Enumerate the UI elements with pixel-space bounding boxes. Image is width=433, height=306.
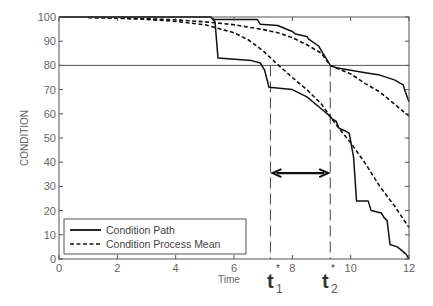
- x-tick-label: 12: [403, 262, 415, 274]
- svg-text:2: 2: [331, 282, 338, 296]
- x-tick-label: 6: [231, 262, 237, 274]
- y-tick-label: 20: [44, 205, 56, 217]
- t1-star-label: t * 1: [267, 263, 283, 296]
- legend: Condition Path Condition Process Mean: [64, 219, 246, 254]
- svg-text:t: t: [322, 270, 329, 292]
- y-tick-label: 100: [38, 11, 56, 23]
- svg-text:1: 1: [276, 282, 283, 296]
- y-tick-label: 0: [50, 253, 56, 265]
- chart-figure: 0246810120102030405060708090100 CONDITIO…: [0, 0, 433, 306]
- y-tick-label: 90: [44, 35, 56, 47]
- x-tick-label: 4: [173, 262, 179, 274]
- y-tick-label: 70: [44, 84, 56, 96]
- mean-curve-upper: [88, 18, 409, 117]
- y-tick-label: 50: [44, 132, 56, 144]
- y-tick-label: 60: [44, 108, 56, 120]
- legend-item-condition-process-mean: Condition Process Mean: [106, 238, 221, 250]
- y-tick-label: 40: [44, 156, 56, 168]
- svg-text:t: t: [267, 270, 274, 292]
- x-tick-label: 8: [289, 262, 295, 274]
- y-tick-label: 80: [44, 59, 56, 71]
- legend-item-condition-path: Condition Path: [106, 224, 175, 236]
- mean-curve-lower: [88, 18, 409, 228]
- x-tick-label: 2: [114, 262, 120, 274]
- x-axis-label: Time: [218, 274, 240, 285]
- t2-star-label: t * 2: [322, 263, 338, 296]
- x-tick-label: 10: [345, 262, 357, 274]
- svg-text:*: *: [331, 263, 335, 274]
- svg-text:*: *: [276, 263, 280, 274]
- x-tick-label: 0: [56, 262, 62, 274]
- y-tick-label: 30: [44, 180, 56, 192]
- interval-double-arrow: [272, 169, 328, 177]
- y-tick-label: 10: [44, 229, 56, 241]
- y-axis-label: CONDITION: [19, 110, 30, 166]
